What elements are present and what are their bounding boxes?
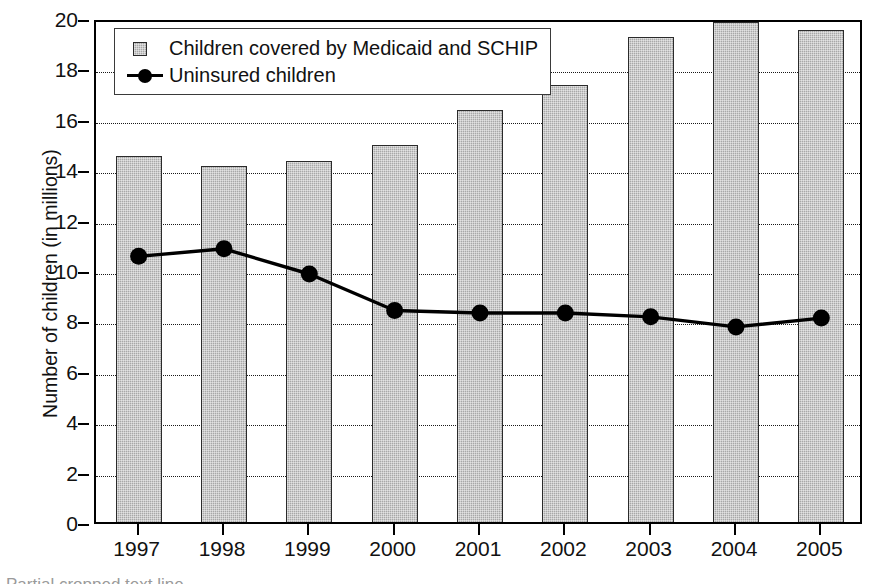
- y-tick-mark-16: [78, 121, 89, 123]
- x-axis: 199719981999200020012002200320042005: [94, 524, 862, 584]
- x-tick-mark-1999: [307, 524, 309, 535]
- bar-2002: [542, 85, 588, 522]
- bar-2003: [628, 37, 674, 522]
- x-tick-mark-2000: [393, 524, 395, 535]
- x-tick-label-1997: 1997: [92, 538, 182, 559]
- y-tick-label-10: 10: [38, 261, 78, 282]
- y-tick-mark-6: [78, 373, 89, 375]
- legend-item-line: Uninsured children: [125, 61, 538, 88]
- x-tick-mark-1997: [137, 524, 139, 535]
- x-tick-label-2005: 2005: [774, 538, 864, 559]
- y-tick-mark-0: [78, 524, 89, 526]
- bar-1999: [286, 161, 332, 522]
- x-tick-label-2001: 2001: [433, 538, 523, 559]
- x-tick-label-1999: 1999: [262, 538, 352, 559]
- bar-2001: [457, 110, 503, 522]
- legend-swatch-line-icon: [125, 65, 165, 85]
- plot-inner: [96, 22, 860, 522]
- x-tick-label-2002: 2002: [518, 538, 608, 559]
- y-tick-label-8: 8: [38, 311, 78, 332]
- y-tick-mark-20: [78, 20, 89, 22]
- plot-area: Children covered by Medicaid and SCHIP U…: [94, 20, 862, 524]
- bar-1998: [201, 166, 247, 522]
- y-tick-mark-12: [78, 222, 89, 224]
- y-tick-label-6: 6: [38, 362, 78, 383]
- y-tick-label-16: 16: [38, 110, 78, 131]
- y-tick-mark-10: [78, 272, 89, 274]
- y-tick-mark-14: [78, 171, 89, 173]
- x-tick-mark-2005: [819, 524, 821, 535]
- y-tick-mark-18: [78, 70, 89, 72]
- x-tick-label-2003: 2003: [604, 538, 694, 559]
- bar-2000: [372, 145, 418, 522]
- x-tick-mark-2004: [734, 524, 736, 535]
- x-tick-mark-2002: [563, 524, 565, 535]
- legend-item-bars: Children covered by Medicaid and SCHIP: [125, 34, 538, 61]
- x-tick-label-1998: 1998: [177, 538, 267, 559]
- y-tick-mark-4: [78, 423, 89, 425]
- bar-1997: [116, 156, 162, 522]
- chart-figure: Number of children (in millions) 0246810…: [0, 0, 874, 584]
- y-axis-labels: 02468101214161820: [30, 20, 78, 524]
- x-tick-mark-1998: [222, 524, 224, 535]
- legend-label-bars: Children covered by Medicaid and SCHIP: [169, 38, 538, 58]
- bar-2005: [798, 30, 844, 522]
- y-tick-label-4: 4: [38, 412, 78, 433]
- y-tick-mark-8: [78, 322, 89, 324]
- y-tick-label-2: 2: [38, 463, 78, 484]
- x-tick-mark-2001: [478, 524, 480, 535]
- y-tick-label-0: 0: [38, 513, 78, 534]
- y-tick-label-12: 12: [38, 211, 78, 232]
- y-tick-label-14: 14: [38, 160, 78, 181]
- bar-2004: [713, 22, 759, 522]
- cropped-caption: Partial cropped text line: [6, 575, 184, 584]
- x-tick-label-2004: 2004: [689, 538, 779, 559]
- legend-label-line: Uninsured children: [169, 65, 336, 85]
- y-tick-label-20: 20: [38, 9, 78, 30]
- legend-swatch-square-icon: [125, 38, 165, 58]
- x-tick-label-2000: 2000: [348, 538, 438, 559]
- x-tick-mark-2003: [649, 524, 651, 535]
- y-tick-label-18: 18: [38, 59, 78, 80]
- y-tick-mark-2: [78, 474, 89, 476]
- legend: Children covered by Medicaid and SCHIP U…: [114, 28, 551, 95]
